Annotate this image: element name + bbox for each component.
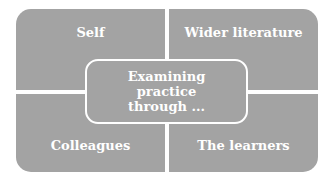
quadrant-self-label: Self xyxy=(76,25,104,40)
center-line-1: Examining xyxy=(128,69,206,84)
center-line-2: practice xyxy=(137,84,196,99)
center-line-3: through ... xyxy=(128,99,205,114)
quadrant-the-learners-label: The learners xyxy=(197,138,289,153)
center-box: Examining practice through ... xyxy=(85,59,248,124)
quadrant-wider-literature-label: Wider literature xyxy=(184,25,302,40)
quadrant-colleagues-label: Colleagues xyxy=(51,138,131,153)
